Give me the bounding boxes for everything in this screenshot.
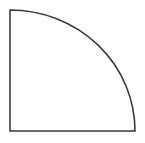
quarter-circle-figure [0,0,145,143]
drawing-canvas [0,0,145,143]
quarter-circle-outline [10,10,135,131]
